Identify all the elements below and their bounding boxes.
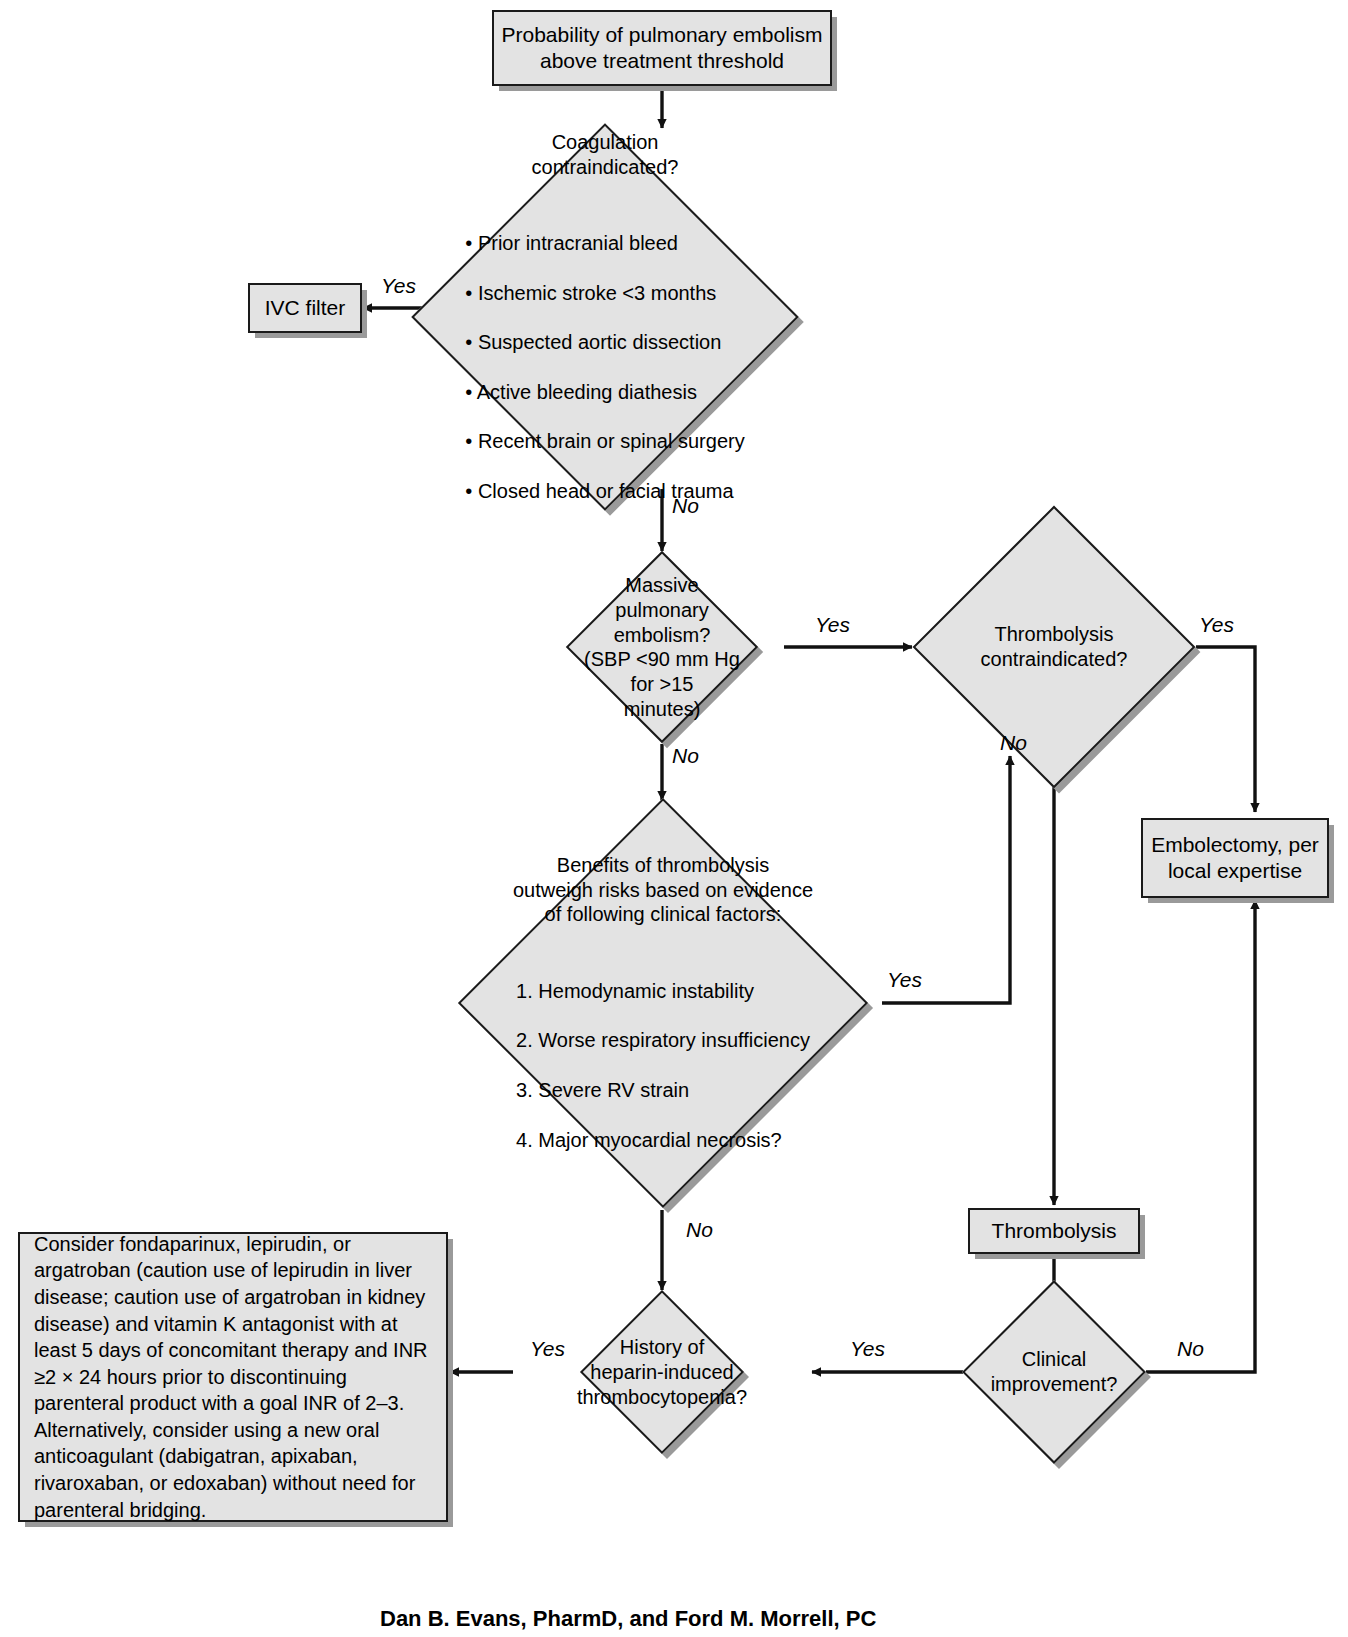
figure-caption: Dan B. Evans, PharmD, and Ford M. Morrel… xyxy=(380,1606,876,1632)
node-coagulation-contraindicated[interactable]: Coagulation contraindicated? • Prior int… xyxy=(468,180,742,454)
node-massive-pulmonary-embolism[interactable]: Massive pulmonary embolism? (SBP <90 mm … xyxy=(594,579,730,715)
node-thrombolysis-label: Thrombolysis xyxy=(992,1218,1117,1244)
benefits-heading: Benefits of thrombolysis outweigh risks … xyxy=(453,853,873,927)
edge-label-clinical-improvement-no: No xyxy=(1177,1337,1204,1361)
node-clinical-improvement-label: Clinical improvement? xyxy=(949,1347,1159,1397)
benefits-factor-2: 3. Severe RV strain xyxy=(516,1078,810,1103)
node-clinical-improvement[interactable]: Clinical improvement? xyxy=(989,1307,1119,1437)
node-anticoagulation-note[interactable]: Consider fondaparinux, lepirudin, or arg… xyxy=(18,1232,448,1522)
coagulation-heading: Coagulation contraindicated? xyxy=(385,130,825,180)
edge-label-hit-yes: Yes xyxy=(530,1337,565,1361)
coagulation-bullet-2: • Suspected aortic dissection xyxy=(465,330,744,355)
coagulation-bullet-1: • Ischemic stroke <3 months xyxy=(465,281,744,306)
benefits-factor-list: 1. Hemodynamic instability 2. Worse resp… xyxy=(516,954,810,1177)
node-thrombolysis-contraindicated-label: Thrombolysis contraindicated? xyxy=(929,622,1179,672)
node-history-of-hit[interactable]: History of heparin-induced thrombocytope… xyxy=(604,1314,720,1430)
node-thrombolysis[interactable]: Thrombolysis xyxy=(968,1208,1140,1254)
coagulation-bullet-0: • Prior intracranial bleed xyxy=(465,231,744,256)
node-ivc-filter-label: IVC filter xyxy=(265,295,346,321)
edge-label-massive-pe-yes: Yes xyxy=(815,613,850,637)
node-start-label: Probability of pulmonary embolism above … xyxy=(502,22,823,73)
node-embolectomy[interactable]: Embolectomy, per local expertise xyxy=(1141,818,1329,898)
benefits-factor-1: 2. Worse respiratory insufficiency xyxy=(516,1029,810,1054)
node-ivc-filter[interactable]: IVC filter xyxy=(248,283,362,333)
edge-label-clinical-improvement-yes: Yes xyxy=(850,1337,885,1361)
edge-label-coagulation-yes: Yes xyxy=(381,274,416,298)
coagulation-bullet-3: • Active bleeding diathesis xyxy=(465,380,744,405)
coagulation-bullet-4: • Recent brain or spinal surgery xyxy=(465,430,744,455)
benefits-factor-3: 4. Major myocardial necrosis? xyxy=(516,1128,810,1153)
edge-label-thrombolysis-contra-no: No xyxy=(1000,731,1027,755)
node-start[interactable]: Probability of pulmonary embolism above … xyxy=(492,10,832,86)
node-anticoagulation-note-label: Consider fondaparinux, lepirudin, or arg… xyxy=(34,1231,432,1524)
flowchart-canvas: Probability of pulmonary embolism above … xyxy=(0,0,1348,1637)
coagulation-bullet-list: • Prior intracranial bleed • Ischemic st… xyxy=(465,206,744,528)
edge-label-benefits-no: No xyxy=(686,1218,713,1242)
node-massive-pe-label: Massive pulmonary embolism? (SBP <90 mm … xyxy=(547,573,777,722)
node-history-of-hit-label: History of heparin-induced thrombocytope… xyxy=(527,1335,797,1409)
edge-label-massive-pe-no: No xyxy=(672,744,699,768)
coagulation-bullet-5: • Closed head or facial trauma xyxy=(465,479,744,504)
edge-label-coagulation-no: No xyxy=(672,494,699,518)
node-benefits-of-thrombolysis[interactable]: Benefits of thrombolysis outweigh risks … xyxy=(518,858,808,1148)
node-thrombolysis-contraindicated[interactable]: Thrombolysis contraindicated? xyxy=(954,547,1154,747)
edge-label-benefits-yes: Yes xyxy=(887,968,922,992)
edge-label-thrombolysis-contra-yes: Yes xyxy=(1199,613,1234,637)
benefits-factor-0: 1. Hemodynamic instability xyxy=(516,979,810,1004)
node-embolectomy-label: Embolectomy, per local expertise xyxy=(1151,832,1319,883)
